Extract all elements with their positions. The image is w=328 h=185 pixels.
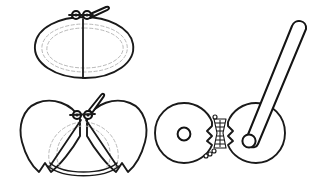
shell-outline	[35, 17, 133, 78]
technical-drawing-canvas: Hinged clamshell device — three views	[0, 0, 328, 185]
right-disc-hub	[242, 134, 255, 147]
knurl-bead-bottom-b	[208, 152, 212, 156]
figure-open-bottom	[21, 94, 147, 176]
pivot-axle-open	[70, 114, 95, 115]
left-wing	[21, 101, 80, 172]
knurl-bead-bottom-c	[204, 154, 208, 158]
knurl-bead-bottom-a	[212, 149, 216, 153]
figure-closed-top	[35, 7, 133, 78]
right-wing	[87, 101, 146, 172]
figure-discs-right	[155, 21, 306, 163]
knurl-bead-top	[213, 115, 217, 119]
left-disc-hub	[178, 128, 191, 141]
